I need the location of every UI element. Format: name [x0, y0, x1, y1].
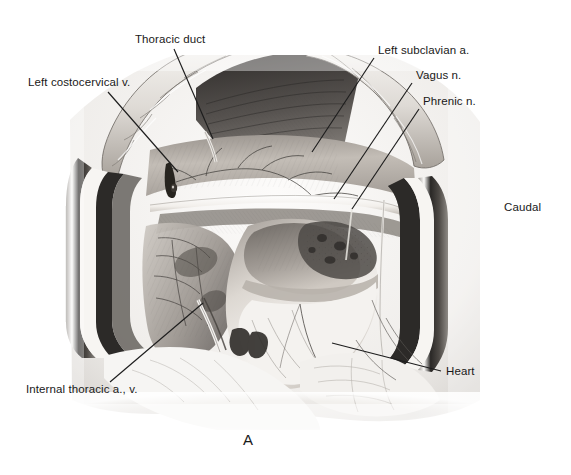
- anatomical-figure: Thoracic duct Left costocervical v. Left…: [0, 0, 571, 475]
- label-left-subclavian-a: Left subclavian a.: [378, 44, 469, 57]
- label-vagus-n: Vagus n.: [416, 69, 461, 82]
- label-phrenic-n: Phrenic n.: [423, 95, 476, 108]
- illustration-artwork: [0, 0, 571, 475]
- label-heart: Heart: [446, 365, 475, 378]
- label-internal-thoracic-av: Internal thoracic a., v.: [26, 383, 138, 396]
- label-thoracic-duct: Thoracic duct: [135, 33, 205, 46]
- label-left-costocervical-v: Left costocervical v.: [28, 76, 130, 89]
- orientation-label-caudal: Caudal: [504, 201, 541, 214]
- panel-letter-a: A: [243, 431, 253, 448]
